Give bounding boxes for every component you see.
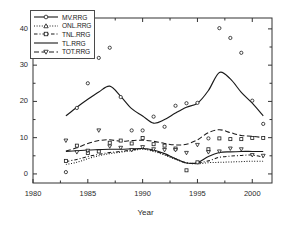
x-tick-label: 1980	[18, 189, 48, 198]
legend-key-icon	[33, 39, 59, 47]
legend-label: TL.RRG	[62, 40, 86, 47]
legend-item: TOT.RRG	[33, 47, 91, 56]
legend-key-icon	[33, 13, 59, 21]
y-tick-label: 40	[8, 24, 28, 33]
legend-item: TL.RRG	[33, 39, 91, 48]
x-tick-label: 1985	[73, 189, 103, 198]
legend-label: ONL.RRG	[62, 22, 91, 29]
legend-key-icon	[33, 22, 59, 30]
chart-figure: 010203040 19801985199019952000 Year MV.R…	[0, 0, 291, 229]
y-tick-label: 10	[8, 133, 28, 142]
legend-label: TOT.RRG	[62, 48, 90, 55]
series-line	[66, 72, 263, 123]
x-tick-label: 1990	[128, 189, 158, 198]
legend-item: TNL.RRG	[33, 30, 91, 39]
legend-item: ONL.RRG	[33, 22, 91, 31]
legend-label: MV.RRG	[62, 14, 87, 21]
legend-key-icon	[33, 48, 59, 56]
x-axis-title: Year	[0, 208, 291, 217]
y-tick-label: 0	[8, 169, 28, 178]
y-tick-label: 30	[8, 60, 28, 69]
series-line	[66, 130, 263, 151]
chart-legend: MV.RRGONL.RRGTNL.RRGTL.RRGTOT.RRG	[30, 10, 95, 59]
x-tick-label: 1995	[182, 189, 212, 198]
legend-label: TNL.RRG	[62, 31, 90, 38]
legend-key-icon	[33, 30, 59, 38]
x-tick-label: 2000	[237, 189, 267, 198]
y-tick-label: 20	[8, 96, 28, 105]
legend-item: MV.RRG	[33, 13, 91, 22]
